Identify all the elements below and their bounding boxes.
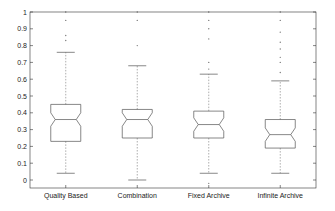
outlier-point	[137, 45, 138, 46]
outlier-point	[208, 38, 209, 39]
outlier-point	[280, 48, 281, 49]
y-tick-label: 1	[23, 9, 27, 16]
outlier-point	[65, 35, 66, 36]
y-tick-label: 0.8	[17, 42, 27, 49]
axes-frame	[30, 12, 316, 188]
box-combination	[122, 11, 152, 180]
outlier-point	[280, 20, 281, 21]
plot-area	[51, 11, 296, 184]
outlier-point	[280, 57, 281, 58]
outlier-point	[208, 62, 209, 63]
box-infinite-archive	[265, 11, 295, 173]
outlier-point	[208, 183, 209, 184]
notched-box	[51, 104, 81, 141]
outlier-point	[208, 68, 209, 69]
y-tick-label: 0.2	[17, 143, 27, 150]
y-tick-label: 0.4	[17, 109, 27, 116]
notched-box	[122, 109, 152, 138]
y-axis: 00.10.20.30.40.50.60.70.80.91	[17, 9, 316, 189]
y-tick-label: 0	[23, 177, 27, 184]
x-category-label: Quality Based	[44, 192, 88, 200]
outlier-point	[280, 72, 281, 73]
outlier-point	[65, 20, 66, 21]
y-tick-label: 0.5	[17, 93, 27, 100]
outlier-point	[280, 42, 281, 43]
x-category-label: Combination	[118, 192, 157, 199]
outlier-point	[208, 20, 209, 21]
box-fixed-archive	[194, 11, 224, 184]
box-quality-based	[51, 11, 81, 173]
y-tick-label: 0.6	[17, 76, 27, 83]
x-category-label: Infinite Archive	[257, 192, 303, 199]
y-tick-label: 0.3	[17, 126, 27, 133]
outlier-point	[280, 62, 281, 63]
x-axis: Quality BasedCombinationFixed ArchiveInf…	[44, 185, 303, 200]
notched-box	[265, 120, 295, 149]
outlier-point	[280, 31, 281, 32]
outlier-point	[137, 20, 138, 21]
outlier-point	[65, 40, 66, 41]
y-tick-label: 0.7	[17, 59, 27, 66]
boxplot-chart: 00.10.20.30.40.50.60.70.80.91 Quality Ba…	[0, 0, 335, 211]
y-tick-label: 0.1	[17, 160, 27, 167]
x-category-label: Fixed Archive	[188, 192, 230, 199]
y-tick-label: 0.9	[17, 25, 27, 32]
outlier-point	[208, 28, 209, 29]
